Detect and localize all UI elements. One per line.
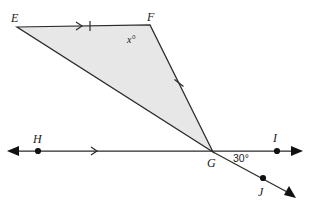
arrowhead-ray-gj-icon — [284, 186, 296, 198]
ray-gj — [213, 152, 289, 193]
vertex-label-j: J — [258, 185, 264, 199]
angle-label-30: 30° — [233, 152, 249, 164]
geometry-figure: E F G H I J x° 30° — [0, 0, 309, 203]
point-dot-j — [260, 175, 266, 181]
vertex-label-e: E — [10, 11, 19, 25]
vertex-label-i: I — [272, 131, 278, 145]
vertex-label-g: G — [207, 156, 216, 170]
arrowhead-right-icon — [291, 146, 303, 156]
angle-label-x: x° — [126, 34, 135, 45]
point-dot-h — [35, 148, 41, 154]
vertex-label-f: F — [146, 10, 155, 24]
arrowhead-left-icon — [7, 146, 19, 156]
vertex-label-h: H — [32, 132, 43, 146]
point-dot-i — [274, 148, 280, 154]
geometry-diagram-canvas: E F G H I J x° 30° — [0, 0, 309, 203]
